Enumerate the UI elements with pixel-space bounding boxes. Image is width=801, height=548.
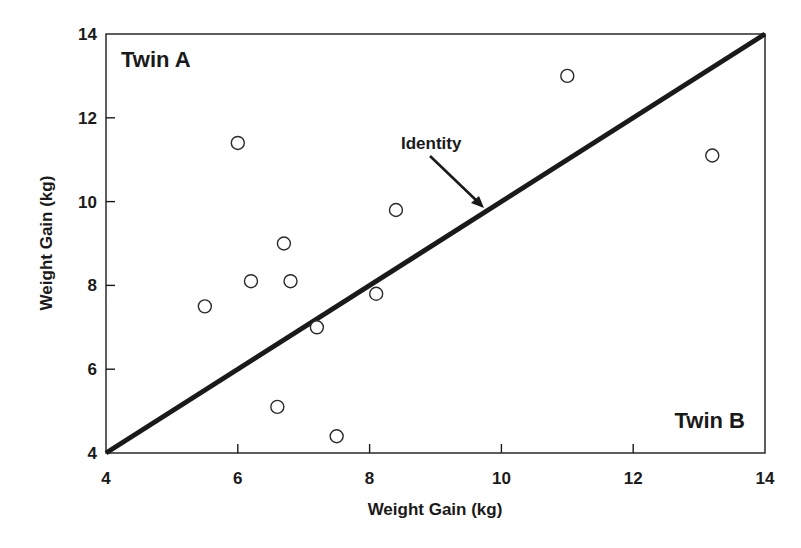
data-point [198,300,211,313]
identity-label: Identity [401,134,462,153]
data-points [198,69,718,442]
y-tick-label: 6 [88,360,97,379]
x-tick-label: 12 [624,469,643,488]
x-axis-title: Weight Gain (kg) [368,500,503,519]
identity-annotation: Identity [401,134,484,208]
data-point [706,149,719,162]
data-point [284,275,297,288]
x-tick-label: 6 [233,469,242,488]
data-point [277,237,290,250]
x-tick-label: 14 [756,469,775,488]
data-point [370,287,383,300]
data-point [310,321,323,334]
data-point [561,69,574,82]
data-point [389,203,402,216]
data-point [244,275,257,288]
identity-line-path [106,34,765,453]
y-tick-label: 14 [78,25,97,44]
data-point [330,430,343,443]
y-axis-title: Weight Gain (kg) [37,176,56,311]
x-tick-label: 8 [365,469,374,488]
x-tick-label: 10 [492,469,511,488]
twin-a-label: Twin A [121,47,191,72]
y-tick-label: 4 [88,444,98,463]
y-tick-label: 10 [78,193,97,212]
x-tick-label: 4 [101,469,111,488]
data-point [271,400,284,413]
data-point [231,136,244,149]
scatter-chart: 468101214468101214 Twin A Twin B Identit… [0,0,801,548]
arrow-shaft [430,156,478,202]
y-tick-label: 8 [88,276,97,295]
y-tick-label: 12 [78,109,97,128]
identity-line [106,34,765,453]
twin-b-label: Twin B [675,408,745,433]
